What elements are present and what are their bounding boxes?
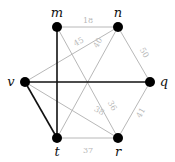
node-q (145, 77, 155, 87)
edge-v-t (25, 82, 57, 138)
edge-v-n (25, 27, 118, 82)
node-r (113, 133, 123, 143)
edge-weight-v-r: 38 (93, 104, 106, 117)
node-t (52, 133, 62, 143)
node-n (113, 22, 123, 32)
edge-weight-q-r: 41 (134, 106, 147, 119)
node-label-q: q (160, 74, 168, 89)
edge-weight-t-r: 37 (83, 146, 93, 155)
edge-weight-n-q: 50 (138, 46, 151, 59)
edge-weight-t-n: 40 (91, 36, 104, 49)
node-label-r: r (115, 144, 122, 159)
graph-diagram: 1845405036383741 mnqrtv (0, 0, 175, 162)
edges-group (25, 27, 150, 138)
node-label-t: t (54, 144, 60, 159)
edge-weight-m-r: 36 (106, 99, 119, 112)
edge-weight-m-n: 18 (83, 16, 93, 25)
edge-weight-v-n: 45 (72, 35, 85, 48)
node-label-v: v (7, 74, 15, 89)
node-v (20, 77, 30, 87)
node-label-n: n (114, 5, 122, 20)
node-m (52, 22, 62, 32)
node-label-m: m (51, 5, 63, 20)
